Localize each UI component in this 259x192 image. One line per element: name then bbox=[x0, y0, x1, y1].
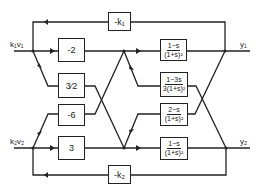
gain-block-neg-k1: -k₁ bbox=[108, 12, 131, 31]
gain-label: -6 bbox=[67, 110, 75, 120]
gain-block-3-halves: 3⁄2 bbox=[58, 73, 85, 98]
gain-label: -2 bbox=[67, 45, 75, 55]
tf-denominator: (1+s)² bbox=[165, 115, 183, 123]
tf-numerator: 1−s bbox=[167, 140, 180, 149]
tf-denominator: 3(1+s)² bbox=[163, 85, 185, 93]
tf-numerator: 1−3s bbox=[165, 76, 182, 85]
input-label-2: k₂v₂ bbox=[10, 137, 24, 146]
gain-label: -k₂ bbox=[114, 170, 125, 180]
input-label-1: k₁v₁ bbox=[10, 40, 23, 49]
tf-numerator: 2−s bbox=[167, 106, 180, 115]
transfer-function-1: 1−s(1+s)² bbox=[160, 39, 187, 61]
transfer-function-3: 2−s(1+s)² bbox=[160, 103, 188, 126]
tf-denominator: (1+s)² bbox=[165, 149, 183, 157]
output-label-y1: y₁ bbox=[240, 40, 247, 49]
gain-block-neg2: -2 bbox=[58, 38, 85, 62]
tf-denominator: (1+s)² bbox=[164, 51, 182, 59]
gain-label: 3⁄2 bbox=[66, 81, 78, 91]
gain-block-3: 3 bbox=[58, 136, 85, 160]
gain-block-neg6: -6 bbox=[58, 104, 85, 126]
output-label-y2: y₂ bbox=[240, 137, 247, 146]
gain-block-neg-k2: -k₂ bbox=[108, 165, 131, 184]
transfer-function-4: 1−s(1+s)² bbox=[160, 137, 188, 160]
transfer-function-2: 1−3s3(1+s)² bbox=[160, 72, 188, 97]
gain-label: 3 bbox=[69, 143, 74, 153]
tf-numerator: 1−s bbox=[167, 42, 180, 51]
gain-label: -k₁ bbox=[114, 17, 125, 27]
